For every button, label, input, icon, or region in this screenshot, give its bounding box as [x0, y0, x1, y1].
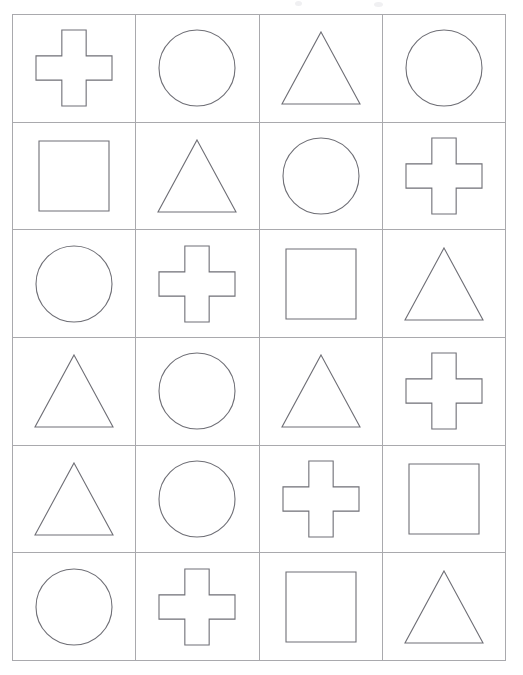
grid-cell-r1-c1[interactable]	[13, 15, 136, 123]
grid-cell-r2-c3[interactable]	[260, 123, 383, 231]
triangle-icon	[33, 353, 115, 429]
triangle-icon	[280, 30, 362, 106]
grid-cell-r6-c2[interactable]	[136, 553, 259, 661]
grid-cell-r5-c4[interactable]	[383, 446, 506, 554]
triangle-icon	[403, 246, 485, 322]
scan-artifact	[374, 2, 383, 7]
cross-icon	[281, 459, 361, 539]
grid-cell-r2-c4[interactable]	[383, 123, 506, 231]
grid-cell-r3-c1[interactable]	[13, 230, 136, 338]
cross-icon	[157, 244, 237, 324]
grid-cell-r6-c1[interactable]	[13, 553, 136, 661]
circle-icon	[157, 351, 237, 431]
worksheet-page	[0, 0, 523, 675]
grid-cell-r6-c4[interactable]	[383, 553, 506, 661]
cross-icon	[404, 351, 484, 431]
grid-cell-r5-c3[interactable]	[260, 446, 383, 554]
grid-cell-r4-c2[interactable]	[136, 338, 259, 446]
grid-cell-r5-c1[interactable]	[13, 446, 136, 554]
grid-cell-r1-c4[interactable]	[383, 15, 506, 123]
grid-cell-r1-c3[interactable]	[260, 15, 383, 123]
grid-cell-r3-c4[interactable]	[383, 230, 506, 338]
grid-cell-r4-c3[interactable]	[260, 338, 383, 446]
square-icon	[284, 570, 358, 644]
grid-cell-r3-c2[interactable]	[136, 230, 259, 338]
square-icon	[284, 247, 358, 321]
triangle-icon	[33, 461, 115, 537]
circle-icon	[34, 244, 114, 324]
shape-grid	[12, 14, 506, 661]
grid-cell-r6-c3[interactable]	[260, 553, 383, 661]
grid-cell-r4-c1[interactable]	[13, 338, 136, 446]
grid-cell-r2-c2[interactable]	[136, 123, 259, 231]
triangle-icon	[156, 138, 238, 214]
square-icon	[407, 462, 481, 536]
cross-icon	[404, 136, 484, 216]
circle-icon	[157, 459, 237, 539]
cross-icon	[157, 567, 237, 647]
circle-icon	[34, 567, 114, 647]
grid-cell-r5-c2[interactable]	[136, 446, 259, 554]
scan-artifact	[295, 1, 302, 6]
circle-icon	[281, 136, 361, 216]
grid-cell-r4-c4[interactable]	[383, 338, 506, 446]
triangle-icon	[280, 353, 362, 429]
square-icon	[37, 139, 111, 213]
circle-icon	[157, 28, 237, 108]
grid-cell-r3-c3[interactable]	[260, 230, 383, 338]
circle-icon	[404, 28, 484, 108]
triangle-icon	[403, 569, 485, 645]
grid-cell-r1-c2[interactable]	[136, 15, 259, 123]
cross-icon	[34, 28, 114, 108]
grid-cell-r2-c1[interactable]	[13, 123, 136, 231]
